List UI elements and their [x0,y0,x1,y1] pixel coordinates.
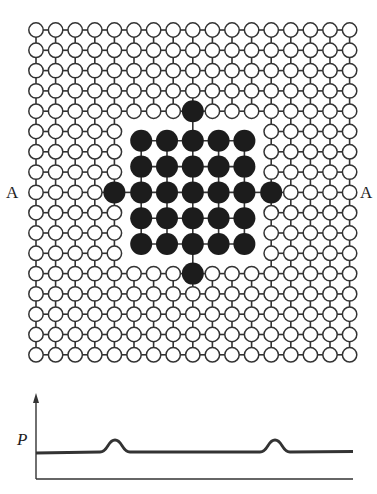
matrix-atom [342,348,356,362]
matrix-atom [146,23,160,37]
matrix-atom [342,43,356,57]
matrix-atom [29,246,43,260]
matrix-atom [264,84,278,98]
matrix-atom [284,104,298,118]
matrix-atom [225,63,239,77]
matrix-atom [303,266,317,280]
matrix-atom [68,327,82,341]
matrix-atom [29,23,43,37]
cluster-atom [208,181,230,203]
matrix-atom [48,145,62,159]
matrix-atom [107,145,121,159]
matrix-atom [303,165,317,179]
matrix-atom [323,63,337,77]
matrix-atom [284,287,298,301]
matrix-atom [48,185,62,199]
matrix-atom [323,226,337,240]
matrix-atom [29,185,43,199]
matrix-atom [225,84,239,98]
matrix-atom [127,327,141,341]
matrix-atom [29,43,43,57]
matrix-atom [166,23,180,37]
cluster-atom [182,181,204,203]
cluster-atom [156,156,178,178]
matrix-atom [88,327,102,341]
matrix-atom [88,287,102,301]
matrix-atom [205,266,219,280]
matrix-atom [107,206,121,220]
matrix-atom [186,43,200,57]
matrix-atom [146,266,160,280]
matrix-atom [107,43,121,57]
matrix-atom [205,43,219,57]
matrix-atom [244,287,258,301]
matrix-atom [166,43,180,57]
matrix-atom [107,348,121,362]
matrix-atom [68,104,82,118]
matrix-atom [264,327,278,341]
matrix-atom [48,307,62,321]
matrix-atom [146,287,160,301]
matrix-atom [323,23,337,37]
matrix-atom [323,327,337,341]
matrix-atom [205,104,219,118]
cluster-atom [156,130,178,152]
matrix-atom [342,206,356,220]
matrix-atom [244,104,258,118]
matrix-atom [68,307,82,321]
cluster-atom [208,156,230,178]
matrix-atom [244,348,258,362]
matrix-atom [303,43,317,57]
matrix-atom [29,226,43,240]
matrix-atom [205,63,219,77]
cluster-atom [130,130,152,152]
matrix-atom [29,266,43,280]
matrix-atom [166,307,180,321]
matrix-atom [323,165,337,179]
matrix-atom [29,287,43,301]
cluster-atom [233,207,255,229]
matrix-atom [303,206,317,220]
matrix-atom [342,63,356,77]
matrix-atom [225,266,239,280]
matrix-atom [342,226,356,240]
matrix-atom [29,206,43,220]
matrix-atom [186,63,200,77]
matrix-atom [127,63,141,77]
matrix-atom [284,23,298,37]
cluster-atom [182,156,204,178]
matrix-atom [107,307,121,321]
matrix-atom [284,124,298,138]
matrix-atom [323,104,337,118]
matrix-atom [205,287,219,301]
matrix-atom [146,104,160,118]
potential-axis-label: P [17,431,27,448]
potential-curve [36,440,353,453]
matrix-atom [29,327,43,341]
matrix-atom [323,84,337,98]
substituted-atom-left [103,181,125,203]
matrix-atom [48,246,62,260]
matrix-atom [205,307,219,321]
matrix-atom [68,124,82,138]
matrix-atom [284,206,298,220]
matrix-atom [284,246,298,260]
matrix-atom [264,266,278,280]
matrix-atom [323,43,337,57]
cluster-atom [130,181,152,203]
matrix-atom [342,104,356,118]
matrix-atom [68,206,82,220]
matrix-atom [186,327,200,341]
lattice-diagram [0,0,377,494]
matrix-atom [323,124,337,138]
matrix-atom [303,124,317,138]
matrix-atom [264,145,278,159]
matrix-atom [303,63,317,77]
cluster-atom [182,207,204,229]
matrix-atom [48,124,62,138]
matrix-atom [264,124,278,138]
matrix-atom [88,63,102,77]
matrix-atom [264,246,278,260]
matrix-atom [166,327,180,341]
matrix-atom [166,84,180,98]
